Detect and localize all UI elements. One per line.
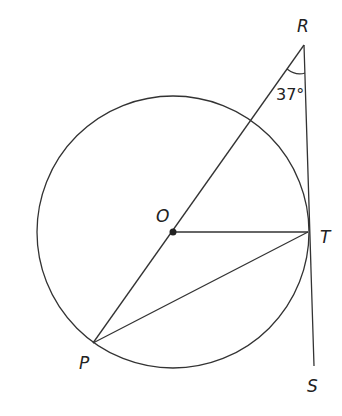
label-P: P [79, 355, 89, 372]
label-R: R [297, 18, 309, 35]
center-point-O [170, 229, 177, 236]
label-T: T [320, 229, 330, 246]
diagram-figure [0, 0, 342, 416]
angle-label: 37° [276, 87, 304, 103]
geometry-diagram: R O T P S 37° [0, 0, 342, 416]
angle-arc-R [287, 69, 305, 74]
label-O: O [156, 208, 169, 225]
line-RP [93, 45, 304, 343]
label-S: S [307, 378, 318, 395]
tangent-RS [304, 45, 314, 366]
chord-PT [93, 232, 308, 343]
